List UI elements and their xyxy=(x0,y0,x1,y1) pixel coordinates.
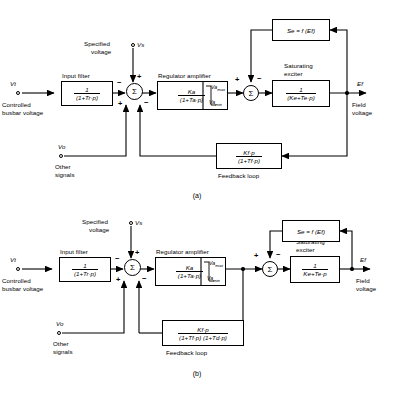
saturating-exciter-numerator: 1 xyxy=(312,262,318,269)
saturating-exciter-title-2: exciter xyxy=(296,246,315,253)
saturating-exciter-denominator: Ke+Te·p xyxy=(302,269,328,277)
saturation-function-expression: Se = f (Ef) xyxy=(297,228,325,235)
saturating-exciter-numerator: 1 xyxy=(298,86,304,93)
saturating-exciter-denominator: (Ke+Te·p) xyxy=(286,93,316,101)
saturating-exciter-block: 1 Ke+Te·p xyxy=(290,256,340,283)
feedback-loop-denominator: (1+Tf·p) (1+Td·p) xyxy=(178,333,229,341)
saturating-exciter-title-1: Saturating xyxy=(284,62,313,69)
regulator-amplifier-limit-max: Vamax xyxy=(211,84,225,92)
saturating-exciter-transfer-function: 1 Ke+Te·p xyxy=(301,262,329,277)
feedback-loop-numerator: Kf·p xyxy=(196,326,210,333)
summing-junction-2-sign-left: + xyxy=(254,252,258,260)
summing-junction-2: Σ xyxy=(262,261,278,277)
limit-min-text: Vamin xyxy=(209,99,222,105)
saturating-exciter-transfer-function: 1 (Ke+Te·p) xyxy=(285,86,317,101)
feedback-loop-denominator: (1+Tf·p) xyxy=(236,156,261,164)
output-symbol-ef: Ef xyxy=(357,80,363,87)
summing-junction-2-sign-left: + xyxy=(235,76,239,84)
summing-junction-2-symbol: Σ xyxy=(268,265,273,274)
output-tap-point xyxy=(345,91,348,94)
feedback-loop-block: Kf·p (1+Tf·p) (1+Td·p) xyxy=(162,320,244,346)
saturation-function-block: Se = f (Ef) xyxy=(272,19,330,41)
output-symbol-ef: Ef xyxy=(360,256,366,263)
summing-junction-2: Σ xyxy=(243,85,259,101)
regulator-amplifier-limit-max: Vamax xyxy=(209,260,223,268)
saturation-function-block: Se = f (Ef) xyxy=(282,220,340,242)
saturating-exciter-block: 1 (Ke+Te·p) xyxy=(272,80,330,107)
output-desc-1: Field xyxy=(352,101,366,108)
limit-max-text: Vamax xyxy=(211,84,225,90)
feedback-loop-block: Kf·p (1+Tf·p) xyxy=(216,143,282,169)
block-diagram-b: Vt Controlled busbar voltage Input filte… xyxy=(0,210,394,411)
block-diagram-a: Vt Controlled busbar voltage Input filte… xyxy=(0,0,394,210)
amplifier-output-tap-point xyxy=(241,267,244,270)
caption-b: (b) xyxy=(0,370,394,377)
summing-junction-2-sign-top: − xyxy=(276,251,280,259)
output-desc-2: voltage xyxy=(356,285,376,292)
feedback-loop-numerator: Kf·p xyxy=(242,149,256,156)
regulator-amplifier-limit-min: Vamin xyxy=(207,275,220,283)
saturation-function-expression: Se = f (Ef) xyxy=(287,27,315,34)
regulator-amplifier-limit-min: Vamin xyxy=(209,99,222,107)
output-tap-point xyxy=(350,267,353,270)
saturating-exciter-title-2: exciter xyxy=(284,70,303,77)
feedback-loop-title: Feedback loop xyxy=(218,172,259,179)
limit-min-text: Vamin xyxy=(207,275,220,281)
feedback-loop-title: Feedback loop xyxy=(166,349,207,356)
regulator-amplifier-limiter-a xyxy=(0,0,394,210)
summing-junction-2-symbol: Σ xyxy=(249,89,254,98)
summing-junction-2-sign-top: − xyxy=(257,75,261,83)
caption-a: (a) xyxy=(0,192,394,199)
feedback-loop-transfer-function: Kf·p (1+Tf·p) (1+Td·p) xyxy=(177,326,230,341)
feedback-loop-transfer-function: Kf·p (1+Tf·p) xyxy=(235,149,262,164)
limit-max-text: Vamax xyxy=(209,260,223,266)
output-desc-1: Field xyxy=(356,277,370,284)
output-desc-2: voltage xyxy=(352,109,372,116)
